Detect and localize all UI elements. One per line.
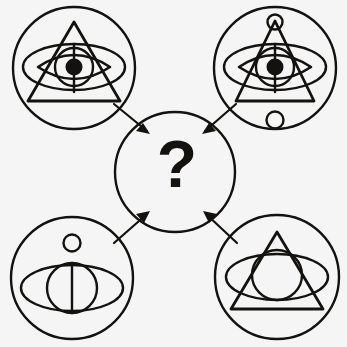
question-mark-label: ? bbox=[157, 127, 197, 201]
pupil-dot bbox=[267, 59, 284, 76]
pupil-dot bbox=[66, 59, 83, 76]
puzzle-diagram: ? bbox=[0, 0, 347, 347]
puzzle-canvas: ? bbox=[0, 0, 347, 347]
